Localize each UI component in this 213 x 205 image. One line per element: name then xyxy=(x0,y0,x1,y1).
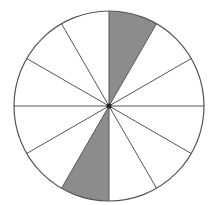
center-dot xyxy=(107,104,112,109)
fraction-circle-diagram xyxy=(0,0,213,205)
